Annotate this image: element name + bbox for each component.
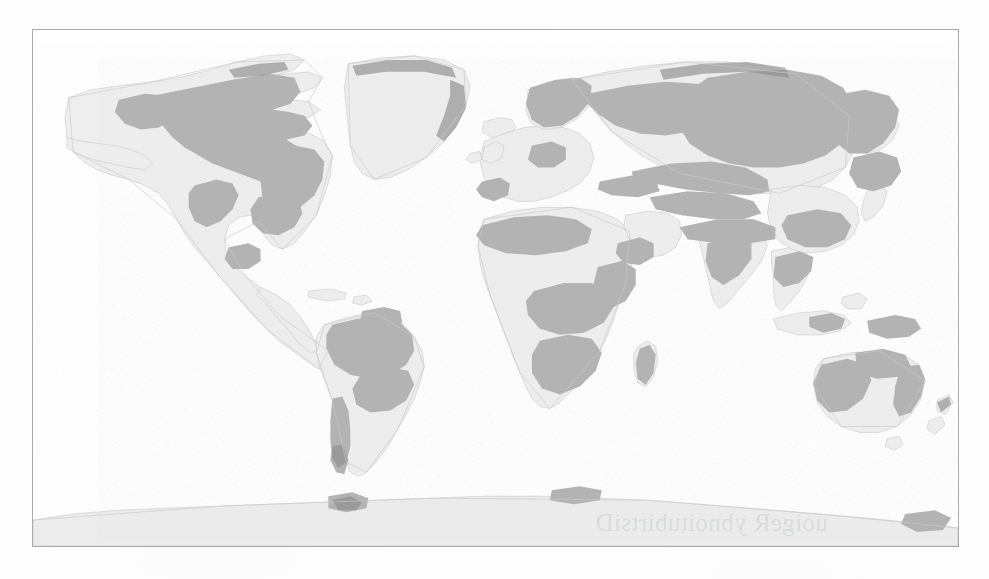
map-figure-frame [32,29,959,547]
scanned-page: uoigeR ybnoitubirtsiD [0,0,989,579]
highlight-siberia-taiga [680,70,854,168]
world-map-graphic [33,30,958,546]
